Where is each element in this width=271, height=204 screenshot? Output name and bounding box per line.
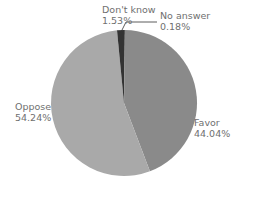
label-dont-know-value: 1.53% <box>102 15 156 26</box>
label-favor-value: 44.04% <box>194 128 230 139</box>
label-oppose: Oppose 54.24% <box>15 101 51 123</box>
label-no-answer: No answer 0.18% <box>160 10 210 32</box>
label-no-answer-value: 0.18% <box>160 21 210 32</box>
label-oppose-name: Oppose <box>15 101 51 112</box>
label-favor-name: Favor <box>194 117 230 128</box>
label-dont-know-name: Don't know <box>102 4 156 15</box>
label-no-answer-name: No answer <box>160 10 210 21</box>
label-oppose-value: 54.24% <box>15 112 51 123</box>
label-favor: Favor 44.04% <box>194 117 230 139</box>
label-dont-know: Don't know 1.53% <box>102 4 156 26</box>
pie-slices <box>51 30 197 176</box>
